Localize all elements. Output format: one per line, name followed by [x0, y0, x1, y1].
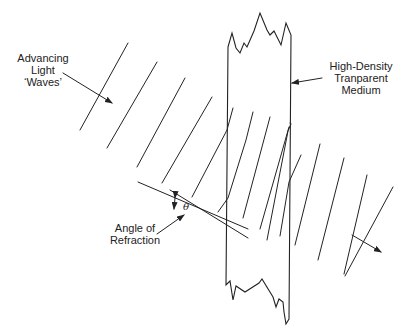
high-density-medium-label: High-Density Tranparent Medium	[315, 60, 405, 96]
label-line: Refraction	[105, 234, 165, 246]
refraction-diagram	[0, 0, 405, 329]
incident-wavefronts	[80, 43, 212, 183]
refracted-wavefronts	[192, 108, 301, 240]
label-line: Medium	[315, 84, 405, 96]
advancing-light-waves-label: Advancing Light ‘Waves’	[12, 52, 74, 88]
exit-direction-arrow	[352, 235, 381, 252]
label-line: Tranparent	[315, 72, 405, 84]
label-line: ‘Waves’	[12, 76, 74, 88]
emergent-wavefronts	[295, 144, 393, 276]
label-line: High-Density	[315, 60, 405, 72]
label-line: Light	[12, 64, 74, 76]
theta-symbol: θ	[183, 201, 189, 212]
label-line: Advancing	[12, 52, 74, 64]
label-line: Angle of	[105, 222, 165, 234]
angle-of-refraction-label: Angle of Refraction	[105, 222, 165, 246]
